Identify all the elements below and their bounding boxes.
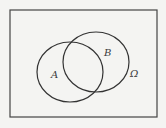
universe-rectangle (10, 10, 157, 117)
set-a-label: A (50, 69, 58, 80)
universe-label: Ω (129, 68, 138, 79)
set-b-label: B (103, 47, 111, 58)
venn-diagram: A B Ω (0, 0, 166, 128)
set-a-ellipse (37, 42, 103, 102)
set-b-ellipse (63, 32, 129, 92)
